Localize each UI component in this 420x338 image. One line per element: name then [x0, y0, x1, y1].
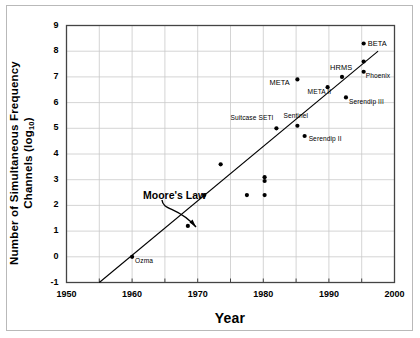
- chart-figure: Number of Simultaneous Frequency Channel…: [0, 0, 420, 338]
- data-point: [263, 179, 267, 183]
- data-point-label: META: [269, 78, 289, 87]
- data-point: [186, 224, 190, 228]
- chart-plot-area: [0, 0, 420, 338]
- y-tick-label: 3: [37, 174, 59, 184]
- data-point-label: Suitcase SETI: [230, 114, 273, 121]
- x-tick-label: 1970: [175, 289, 221, 299]
- data-point-label: META II: [308, 88, 332, 95]
- data-point-label: Serendip III: [349, 98, 384, 105]
- data-point: [219, 162, 223, 166]
- data-point-label: Sentinel: [283, 112, 308, 119]
- data-point-label: Ozma: [135, 257, 153, 264]
- y-axis-title-line1: Number of Simultaneous Frequency: [8, 61, 20, 265]
- y-tick-label: 5: [37, 122, 59, 132]
- y-tick-label: 2: [37, 199, 59, 209]
- data-point: [295, 77, 299, 81]
- data-point: [130, 255, 134, 259]
- data-point: [295, 124, 299, 128]
- data-point: [362, 59, 366, 63]
- y-tick-label: 8: [37, 45, 59, 55]
- data-point: [362, 41, 366, 45]
- data-point-label: BETA: [368, 39, 387, 48]
- y-tick-label: 9: [37, 20, 59, 30]
- data-point: [340, 75, 344, 79]
- data-point: [263, 193, 267, 197]
- y-axis-title-line2: Channels (log: [22, 130, 34, 209]
- data-point-label: Phoenix: [366, 72, 391, 79]
- x-tick-label: 1960: [109, 289, 155, 299]
- data-point: [303, 134, 307, 138]
- x-tick-label: 1950: [44, 289, 90, 299]
- moores-law-annotation: Moore's Law: [143, 189, 206, 201]
- x-axis-title: Year: [66, 310, 394, 326]
- x-tick-label: 1990: [306, 289, 352, 299]
- y-axis-title: Number of Simultaneous Frequency Channel…: [7, 48, 37, 278]
- data-point: [344, 95, 348, 99]
- y-tick-label: 7: [37, 71, 59, 81]
- x-tick-label: 2000: [372, 289, 418, 299]
- data-point: [245, 193, 249, 197]
- moores-law-trendline: [99, 51, 378, 282]
- data-point: [274, 126, 278, 130]
- y-tick-label: -1: [37, 277, 59, 287]
- y-tick-label: 6: [37, 97, 59, 107]
- data-point-label: HRMS: [330, 63, 352, 72]
- y-axis-title-subscript: 10: [27, 121, 36, 130]
- data-point: [263, 175, 267, 179]
- y-tick-label: 4: [37, 148, 59, 158]
- y-tick-label: 1: [37, 225, 59, 235]
- data-point-label: Serendip II: [309, 135, 342, 142]
- x-tick-label: 1980: [240, 289, 286, 299]
- y-tick-label: 0: [37, 251, 59, 261]
